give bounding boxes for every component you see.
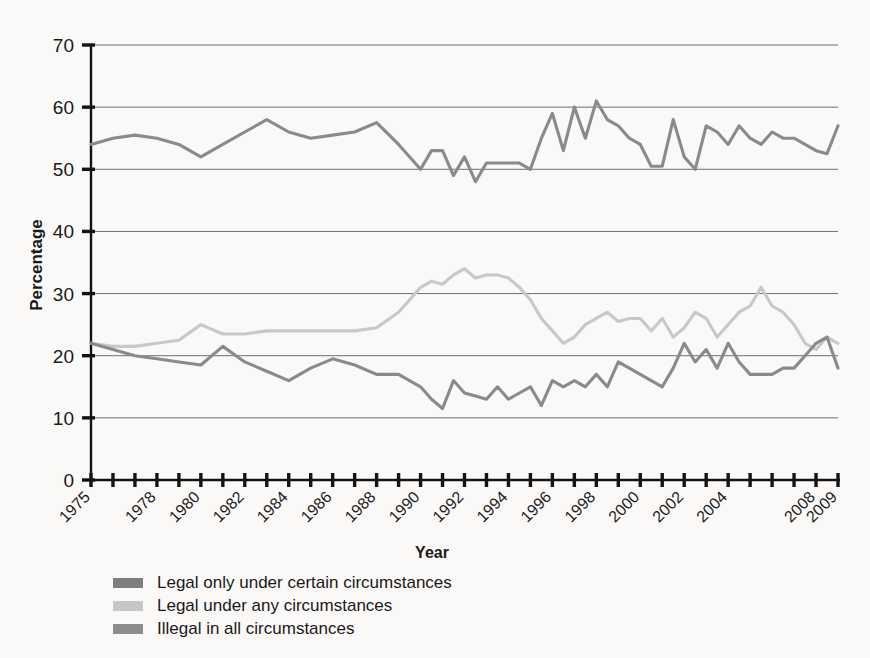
y-tick-label: 20 [53, 346, 74, 367]
chart-figure: 010203040506070 197519781980198219841986… [0, 0, 870, 658]
x-axis-title: Year [415, 544, 449, 561]
y-axis-title: Percentage [27, 219, 46, 311]
y-tick-label: 30 [53, 284, 74, 305]
y-tick-label: 60 [53, 97, 74, 118]
x-tick-label: 1994 [473, 488, 510, 525]
legend-swatch [113, 601, 143, 611]
y-tick-label: 50 [53, 159, 74, 180]
x-tick-label: 1978 [122, 488, 159, 525]
y-axis-ticks: 010203040506070 [53, 35, 95, 491]
x-tick-label: 1975 [56, 488, 93, 525]
series-layer [91, 101, 838, 409]
legend-swatch [113, 578, 143, 588]
x-tick-label: 1986 [298, 488, 335, 525]
legend-label: Illegal in all circumstances [157, 619, 354, 638]
x-tick-label: 2002 [649, 488, 686, 525]
series-line [91, 337, 838, 408]
x-tick-label: 1988 [342, 488, 379, 525]
x-tick-label: 1982 [210, 488, 247, 525]
x-tick-label: 1984 [254, 488, 291, 525]
x-tick-label: 1980 [166, 488, 203, 525]
series-line [91, 269, 838, 350]
y-tick-label: 10 [53, 408, 74, 429]
y-tick-label: 70 [53, 35, 74, 56]
x-tick-label: 1996 [517, 488, 554, 525]
legend-swatch [113, 624, 143, 634]
line-chart: 010203040506070 197519781980198219841986… [0, 0, 870, 658]
x-tick-label: 2000 [605, 488, 642, 525]
x-tick-label: 1998 [561, 488, 598, 525]
y-tick-label: 40 [53, 221, 74, 242]
legend-label: Legal only under certain circumstances [157, 573, 452, 592]
y-tick-label: 0 [63, 470, 74, 491]
legend-label: Legal under any circumstances [157, 596, 392, 615]
x-tick-label: 2004 [693, 488, 730, 525]
x-tick-label: 1992 [429, 488, 466, 525]
x-tick-label: 1990 [385, 488, 422, 525]
chart-legend: Legal only under certain circumstancesLe… [113, 573, 452, 638]
